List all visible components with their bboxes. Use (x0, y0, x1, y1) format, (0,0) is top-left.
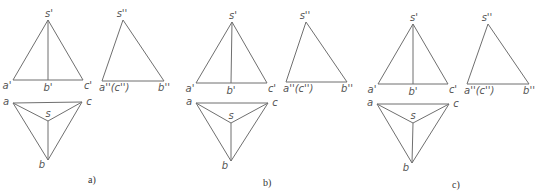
side-label-ac: a''(c'') (99, 82, 129, 93)
top-label-b: b (403, 162, 409, 173)
front-label-a: a' (3, 80, 12, 91)
front-edge-sc (48, 20, 83, 80)
side-label-b: b'' (523, 85, 535, 96)
side-label-ac: a''(c'') (464, 85, 494, 96)
front-edge-sc (232, 22, 267, 83)
top-label-b: b (39, 159, 45, 170)
top-view: acsb (3, 96, 92, 170)
top-label-s: s (410, 110, 415, 121)
top-label-c: c (86, 96, 92, 107)
top-view: acsb (367, 97, 459, 173)
side-label-s: s'' (482, 12, 493, 23)
side-label-s: s'' (300, 10, 311, 21)
front-label-c: c' (449, 84, 457, 95)
front-view: s'a'b'c' (3, 8, 93, 93)
panel-c: s'a'b'c's''a''(c'')b''acsbc) (367, 12, 535, 191)
side-label-s: s'' (117, 8, 128, 19)
side-view: s''a''(c'')b'' (464, 12, 535, 96)
side-view: s''a''(c'')b'' (283, 10, 353, 94)
side-label-b: b'' (341, 83, 353, 94)
top-label-s: s (228, 110, 233, 121)
side-label-b: b'' (158, 82, 170, 93)
front-label-c: c' (268, 83, 276, 94)
front-view: s'a'b'c' (368, 12, 458, 97)
front-label-s: s' (410, 12, 418, 23)
front-label-s: s' (229, 10, 237, 21)
pyramid-projection-drawing: s'a'b'c's''a''(c'')b''acsba)s'a'b'c's''a… (0, 0, 544, 196)
front-label-c: c' (84, 80, 92, 91)
panel-caption: c) (452, 179, 460, 191)
side-label-ac: a''(c'') (283, 83, 313, 94)
panel-caption: b) (263, 177, 271, 189)
top-label-s: s (45, 108, 50, 119)
top-edge-ab (196, 103, 231, 161)
front-view: s'a'b'c' (186, 10, 277, 96)
front-label-b: b' (408, 86, 417, 97)
top-label-a: a (3, 96, 9, 107)
top-edge-cb (231, 103, 268, 161)
front-edge-sa (196, 22, 232, 83)
front-edge-sa (378, 24, 413, 84)
top-label-a: a (367, 97, 373, 108)
front-label-b: b' (43, 82, 52, 93)
panel-b: s'a'b'c's''a''(c'')b''acsbb) (186, 10, 353, 189)
front-label-b: b' (226, 85, 235, 96)
front-label-a: a' (368, 84, 377, 95)
side-edge-sb (488, 24, 529, 84)
panel-a: s'a'b'c's''a''(c'')b''acsba) (3, 8, 170, 186)
front-edge-sb (231, 22, 232, 83)
top-view: acsb (186, 96, 278, 171)
top-edge-sc (231, 103, 268, 123)
panel-caption: a) (88, 174, 96, 186)
side-edge-sa (286, 22, 306, 82)
front-label-a: a' (186, 83, 195, 94)
top-edge-sa (196, 103, 231, 123)
top-label-c: c (453, 98, 459, 109)
top-edge-sb (412, 123, 413, 163)
side-edge-sa (467, 24, 488, 84)
top-label-b: b (222, 160, 228, 171)
side-edge-sa (102, 20, 123, 81)
top-edge-cb (412, 104, 449, 163)
front-edge-sa (13, 20, 48, 80)
top-label-a: a (186, 96, 192, 107)
top-edge-ac (13, 102, 82, 103)
front-edge-sc (413, 24, 448, 84)
front-label-s: s' (45, 8, 53, 19)
side-edge-sb (306, 22, 347, 82)
top-edge-cb (48, 102, 82, 160)
top-label-c: c (272, 97, 278, 108)
side-view: s''a''(c'')b'' (99, 8, 170, 93)
side-edge-sb (123, 20, 164, 81)
